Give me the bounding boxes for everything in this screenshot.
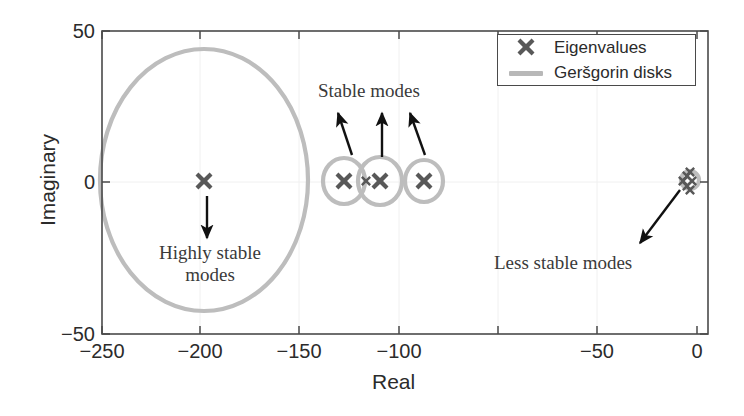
legend-entry-eigenvalues: Eigenvalues bbox=[498, 35, 695, 61]
annotation-highly-stable-modes: Highly stable modes bbox=[140, 242, 280, 286]
x-marker-icon bbox=[498, 36, 554, 60]
annotation-highly-stable-line2: modes bbox=[185, 264, 235, 285]
annotation-stable-modes: Stable modes bbox=[318, 80, 420, 102]
x-tick-label-150: −150 bbox=[276, 340, 321, 363]
y-tick-label-neg50: −50 bbox=[46, 323, 95, 346]
legend-label-eigenvalues: Eigenvalues bbox=[554, 38, 647, 58]
legend-label-gersgorin-disks: Geršgorin disks bbox=[554, 63, 672, 83]
line-swatch-icon bbox=[498, 61, 554, 85]
x-tick-label-50: −50 bbox=[580, 340, 614, 363]
x-tick-label-200: −200 bbox=[177, 340, 222, 363]
annotation-highly-stable-line1: Highly stable bbox=[159, 242, 261, 263]
y-tick-label-50: 50 bbox=[55, 20, 95, 43]
x-axis-label: Real bbox=[372, 370, 415, 394]
x-tick-label-0: 0 bbox=[691, 340, 702, 363]
legend-entry-gersgorin-disks: Geršgorin disks bbox=[498, 60, 695, 86]
y-tick-label-0: 0 bbox=[55, 171, 95, 194]
legend: Eigenvalues Geršgorin disks bbox=[497, 34, 696, 86]
y-axis-label: Imaginary bbox=[36, 110, 60, 250]
annotation-less-stable-modes: Less stable modes bbox=[494, 252, 632, 274]
x-tick-label-100: −100 bbox=[376, 340, 421, 363]
